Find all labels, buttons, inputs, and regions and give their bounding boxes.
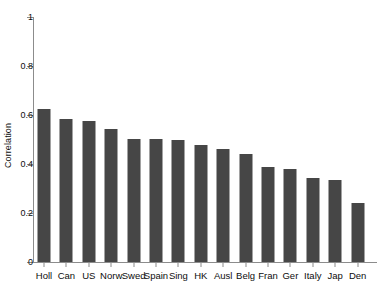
x-axis-line — [33, 262, 377, 263]
x-tick-label: HK — [194, 270, 207, 281]
x-tick-label: Can — [58, 270, 75, 281]
x-tick-label: Swed — [122, 270, 146, 281]
x-tick-mark — [111, 262, 112, 267]
x-tick-mark — [133, 262, 134, 267]
x-tick-label: Belg — [236, 270, 255, 281]
bar — [38, 109, 51, 262]
bar — [105, 129, 118, 262]
x-tick-label: US — [82, 270, 95, 281]
y-axis-line — [33, 17, 34, 263]
x-tick-mark — [245, 262, 246, 267]
x-tick-mark — [44, 262, 45, 267]
y-tick-label: 0.4 — [9, 159, 33, 169]
bar — [306, 178, 319, 262]
bar-chart: Correlation 00.20.40.60.81 HollCanUSNorw… — [0, 0, 377, 291]
bar — [351, 203, 364, 262]
x-tick-label: Holl — [36, 270, 52, 281]
y-tick-label: 0.8 — [9, 61, 33, 71]
x-tick-mark — [290, 262, 291, 267]
y-tick-label: 0 — [9, 257, 33, 267]
x-tick-mark — [178, 262, 179, 267]
x-tick-mark — [88, 262, 89, 267]
x-tick-label: Ausl — [214, 270, 232, 281]
x-tick-mark — [66, 262, 67, 267]
x-tick-label: Sing — [169, 270, 188, 281]
y-axis-label: Correlation — [0, 0, 16, 291]
bar — [82, 121, 95, 262]
x-tick-mark — [312, 262, 313, 267]
bar — [127, 139, 140, 262]
x-tick-mark — [200, 262, 201, 267]
x-tick-mark — [223, 262, 224, 267]
x-tick-mark — [156, 262, 157, 267]
bar — [262, 167, 275, 262]
bar — [284, 169, 297, 262]
x-tick-mark — [357, 262, 358, 267]
x-tick-label: Italy — [304, 270, 321, 281]
x-tick-mark — [268, 262, 269, 267]
bar — [329, 180, 342, 262]
x-tick-label: Norw — [100, 270, 122, 281]
x-tick-label: Spain — [144, 270, 168, 281]
x-tick-label: Fran — [258, 270, 278, 281]
y-tick-label: 0.6 — [9, 110, 33, 120]
bar — [194, 145, 207, 262]
x-tick-mark — [335, 262, 336, 267]
bar — [217, 149, 230, 262]
x-tick-label: Jap — [328, 270, 343, 281]
x-tick-label: Den — [349, 270, 366, 281]
bar — [239, 154, 252, 262]
bar — [172, 140, 185, 263]
x-tick-label: Ger — [282, 270, 298, 281]
bar — [150, 139, 163, 262]
y-tick-label: 1 — [9, 12, 33, 22]
bar — [60, 119, 73, 262]
y-tick-label: 0.2 — [9, 208, 33, 218]
